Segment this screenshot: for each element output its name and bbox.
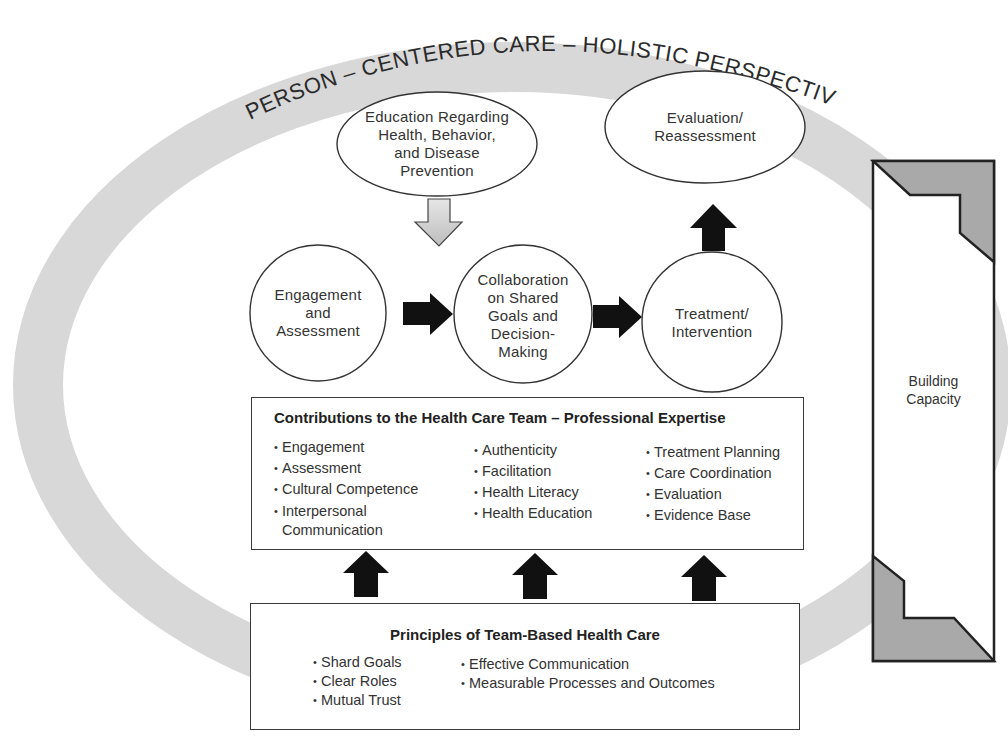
- bullet-icon: •: [461, 674, 469, 693]
- collaboration-line: Collaboration: [478, 271, 569, 289]
- contributions-column-2: •Authenticity •Facilitation •Health Lite…: [474, 440, 592, 524]
- treatment-node: Treatment/ Intervention: [647, 303, 777, 343]
- bullet-icon: •: [313, 653, 321, 672]
- list-item: •Interpersonal: [274, 502, 418, 521]
- engagement-line: and: [305, 304, 331, 322]
- bullet-icon: •: [274, 479, 282, 500]
- list-item: •Mutual Trust: [313, 691, 402, 710]
- list-item: •Measurable Processes and Outcomes: [461, 674, 715, 693]
- treatment-line: Intervention: [672, 323, 753, 341]
- arrow-up-icon: [681, 555, 727, 601]
- collaboration-line: Goals and: [488, 307, 558, 325]
- list-item: •Health Education: [474, 503, 592, 524]
- bullet-icon: •: [274, 502, 282, 521]
- capacity-label: Building Capacity: [873, 372, 994, 408]
- list-item: •Effective Communication: [461, 655, 715, 674]
- bullet-icon: •: [274, 437, 282, 458]
- principles-title: Principles of Team-Based Health Care: [251, 626, 799, 643]
- collaboration-line: Making: [498, 343, 548, 361]
- arrow-down-icon: [415, 199, 462, 246]
- engagement-node: Engagement and Assessment: [255, 283, 381, 343]
- arrow-up-icon: [690, 204, 737, 251]
- list-item: •Evidence Base: [646, 505, 780, 526]
- bullet-icon: •: [274, 458, 282, 479]
- engagement-line: Engagement: [274, 286, 361, 304]
- collaboration-line: Decision-: [491, 325, 555, 343]
- list-item: •Facilitation: [474, 461, 592, 482]
- education-line: and Disease: [394, 144, 480, 162]
- principles-box: Principles of Team-Based Health Care •Sh…: [250, 603, 800, 730]
- capacity-line: Capacity: [873, 390, 994, 408]
- list-item: •Engagement: [274, 437, 418, 458]
- contributions-title: Contributions to the Health Care Team – …: [274, 409, 726, 426]
- treatment-line: Treatment/: [675, 305, 749, 323]
- principles-column-1: •Shard Goals •Clear Roles •Mutual Trust: [313, 653, 402, 710]
- bullet-icon: •: [646, 442, 654, 463]
- contributions-column-1: •Engagement •Assessment •Cultural Compet…: [274, 437, 418, 540]
- education-line: Health, Behavior,: [378, 126, 496, 144]
- education-node: Education Regarding Health, Behavior, an…: [342, 98, 532, 190]
- arrow-up-icon: [343, 551, 389, 597]
- bullet-icon: •: [313, 691, 321, 710]
- list-item: •Assessment: [274, 458, 418, 479]
- bullet-icon: •: [646, 505, 654, 526]
- arrow-right-icon: [403, 293, 453, 335]
- collaboration-node: Collaboration on Shared Goals and Decisi…: [458, 268, 588, 364]
- list-item: •Health Literacy: [474, 482, 592, 503]
- list-item: •Cultural Competence: [274, 479, 418, 500]
- list-item-continued: Communication: [274, 521, 418, 540]
- list-item: •Care Coordination: [646, 463, 780, 484]
- principles-column-2: •Effective Communication •Measurable Pro…: [461, 655, 715, 693]
- bullet-icon: •: [474, 503, 482, 524]
- bullet-icon: •: [646, 484, 654, 505]
- evaluation-line: Evaluation/: [667, 109, 743, 127]
- education-line: Education Regarding: [365, 108, 509, 126]
- bullet-icon: •: [474, 461, 482, 482]
- bullet-icon: •: [474, 482, 482, 503]
- bullet-icon: •: [313, 672, 321, 691]
- bullet-icon: •: [474, 440, 482, 461]
- contributions-box: Contributions to the Health Care Team – …: [251, 397, 804, 550]
- bullet-icon: •: [461, 655, 469, 674]
- list-item: •Clear Roles: [313, 672, 402, 691]
- arrow-right-icon: [593, 296, 642, 338]
- list-item: •Evaluation: [646, 484, 780, 505]
- contributions-column-3: •Treatment Planning •Care Coordination •…: [646, 442, 780, 526]
- evaluation-line: Reassessment: [654, 127, 756, 145]
- capacity-line: Building: [873, 372, 994, 390]
- list-item: •Shard Goals: [313, 653, 402, 672]
- evaluation-node: Evaluation/ Reassessment: [610, 100, 800, 154]
- bullet-icon: •: [646, 463, 654, 484]
- education-line: Prevention: [400, 162, 474, 180]
- collaboration-line: on Shared: [487, 289, 558, 307]
- list-item: •Treatment Planning: [646, 442, 780, 463]
- engagement-line: Assessment: [276, 322, 360, 340]
- list-item: •Authenticity: [474, 440, 592, 461]
- arrow-up-icon: [512, 553, 558, 599]
